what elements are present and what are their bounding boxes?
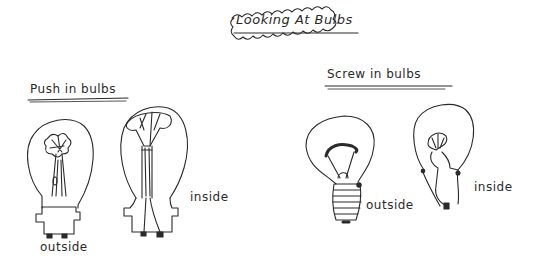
section-heading-push-in: Push in bulbs (30, 82, 116, 96)
page-title: Looking At Bulbs (236, 12, 353, 27)
screw-bulb-inside-drawing (414, 104, 474, 209)
screw-bulb-outside-drawing (306, 116, 374, 222)
label-push-outside: outside (40, 240, 88, 254)
drawing-canvas (0, 0, 539, 271)
label-screw-inside: inside (474, 180, 513, 194)
push-heading-underline (28, 98, 128, 100)
push-bulb-outside-drawing (28, 120, 94, 238)
push-bulb-inside-drawing (121, 107, 188, 237)
label-push-inside: inside (190, 190, 229, 204)
push-heading-underline-2 (30, 101, 126, 102)
section-heading-screw-in: Screw in bulbs (327, 67, 421, 81)
label-screw-outside: outside (366, 198, 414, 212)
